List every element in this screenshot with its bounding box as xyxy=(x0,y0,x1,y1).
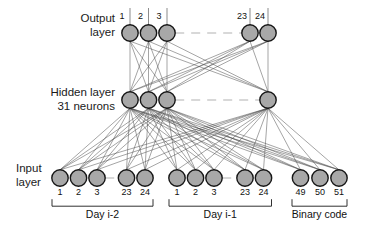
output-node-label-3: 3 xyxy=(156,11,161,21)
input-neuron-binary-code-51 xyxy=(331,170,347,186)
output-node-tick-lines xyxy=(130,8,268,25)
hidden-neuron-3 xyxy=(159,92,175,108)
edge-hidden-output xyxy=(130,41,250,92)
output-node-label-2: 2 xyxy=(138,11,143,21)
edge-input-hidden xyxy=(245,108,268,170)
input-group-captions: Day i-2Day i-1Binary code xyxy=(86,208,348,220)
input-neuron-day-i-1-1 xyxy=(169,170,185,186)
input-node-label-day-i-2-2: 2 xyxy=(76,187,81,197)
edge-input-hidden xyxy=(60,108,130,170)
input-neuron-binary-code-50 xyxy=(312,170,328,186)
output-neuron-23 xyxy=(242,25,258,41)
group-bracket-day-i-2 xyxy=(52,199,153,206)
output-node-label-1: 1 xyxy=(119,11,124,21)
input-layer-nodes xyxy=(52,170,347,186)
output-node-label-24: 24 xyxy=(255,11,265,21)
edge-input-hidden xyxy=(79,108,269,170)
hidden-neuron-1 xyxy=(122,92,138,108)
edge-input-hidden xyxy=(97,108,130,170)
input-node-labels: 12323241232324495051 xyxy=(57,187,344,197)
output-neuron-3 xyxy=(159,25,175,41)
hidden-neuron-2 xyxy=(140,92,156,108)
edge-input-hidden xyxy=(130,108,320,170)
input-node-label-day-i-1-23: 23 xyxy=(240,187,250,197)
edge-input-hidden xyxy=(264,108,269,170)
edges-hidden-to-output xyxy=(130,41,268,92)
output-neuron-2 xyxy=(140,25,156,41)
input-node-label-binary-code-51: 51 xyxy=(334,187,344,197)
group-caption-binary-code: Binary code xyxy=(292,208,348,220)
group-bracket-day-i-1 xyxy=(169,199,272,206)
edge-input-hidden xyxy=(167,108,339,170)
input-neuron-day-i-1-3 xyxy=(206,170,222,186)
output-layer-label: Output layer xyxy=(80,12,115,38)
input-node-label-day-i-1-2: 2 xyxy=(193,187,198,197)
group-bracket-binary-code xyxy=(292,199,347,206)
input-neuron-day-i-2-24 xyxy=(137,170,153,186)
input-layer-label: Input layer xyxy=(16,162,42,188)
input-node-label-day-i-2-23: 23 xyxy=(121,187,131,197)
input-node-label-day-i-1-1: 1 xyxy=(174,187,179,197)
input-node-label-binary-code-49: 49 xyxy=(295,187,305,197)
input-neuron-binary-code-49 xyxy=(292,170,308,186)
input-neuron-day-i-1-23 xyxy=(237,170,253,186)
output-layer-label-line1: Output xyxy=(80,12,115,24)
input-node-label-day-i-2-1: 1 xyxy=(57,187,62,197)
network-svg-canvas: 1232324 12323241232324495051 Day i-2Day … xyxy=(0,0,368,236)
edge-input-hidden xyxy=(130,108,301,170)
hidden-layer-label-line1: Hidden layer xyxy=(50,86,115,98)
input-layer-label-line2: layer xyxy=(16,176,41,188)
input-group-brackets xyxy=(52,199,347,206)
hidden-neuron-4 xyxy=(260,92,276,108)
hidden-layer-label: Hidden layer 31 neurons xyxy=(50,86,115,112)
input-node-label-day-i-1-24: 24 xyxy=(258,187,268,197)
input-node-label-binary-code-50: 50 xyxy=(315,187,325,197)
output-neuron-24 xyxy=(260,25,276,41)
input-node-label-day-i-2-24: 24 xyxy=(140,187,150,197)
hidden-layer-label-line2: 31 neurons xyxy=(57,100,115,112)
edge-input-hidden xyxy=(268,108,339,170)
group-caption-day-i-2: Day i-2 xyxy=(86,208,119,220)
input-neuron-day-i-1-24 xyxy=(255,170,271,186)
edges-input-to-hidden xyxy=(60,108,339,170)
edge-input-hidden xyxy=(127,108,131,170)
input-neuron-day-i-2-23 xyxy=(118,170,134,186)
input-node-label-day-i-2-3: 3 xyxy=(94,187,99,197)
input-neuron-day-i-2-3 xyxy=(89,170,105,186)
input-neuron-day-i-1-2 xyxy=(187,170,203,186)
edge-input-hidden xyxy=(130,108,339,170)
input-neuron-day-i-2-2 xyxy=(70,170,86,186)
output-node-labels: 1232324 xyxy=(119,11,265,21)
output-neuron-1 xyxy=(122,25,138,41)
group-caption-day-i-1: Day i-1 xyxy=(204,208,237,220)
edge-input-hidden xyxy=(268,108,301,170)
output-node-label-23: 23 xyxy=(237,11,247,21)
input-node-label-day-i-1-3: 3 xyxy=(211,187,216,197)
input-layer-label-line1: Input xyxy=(16,162,42,174)
output-layer-label-line2: layer xyxy=(90,26,115,38)
input-neuron-day-i-2-1 xyxy=(52,170,68,186)
neural-network-diagram: 1232324 12323241232324495051 Day i-2Day … xyxy=(0,0,368,236)
